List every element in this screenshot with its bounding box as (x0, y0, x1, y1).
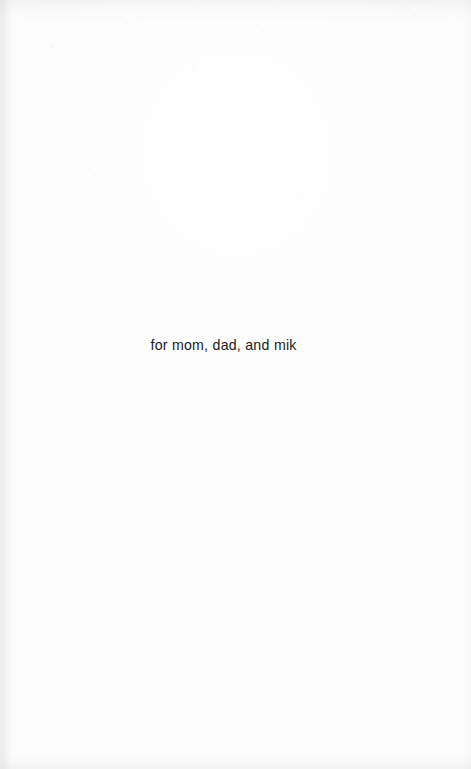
paper-grain-texture (0, 0, 471, 769)
dedication-page: for mom, dad, and mik (0, 0, 471, 769)
scan-edge-shadow-bottom (0, 751, 471, 769)
scan-edge-shadow-right (461, 0, 471, 769)
scan-edge-shadow-top (0, 0, 471, 22)
scan-edge-shadow-left (0, 0, 16, 769)
dedication-block: for mom, dad, and mik (0, 336, 447, 354)
paper-background (0, 0, 471, 769)
dedication-text: for mom, dad, and mik (151, 336, 297, 354)
